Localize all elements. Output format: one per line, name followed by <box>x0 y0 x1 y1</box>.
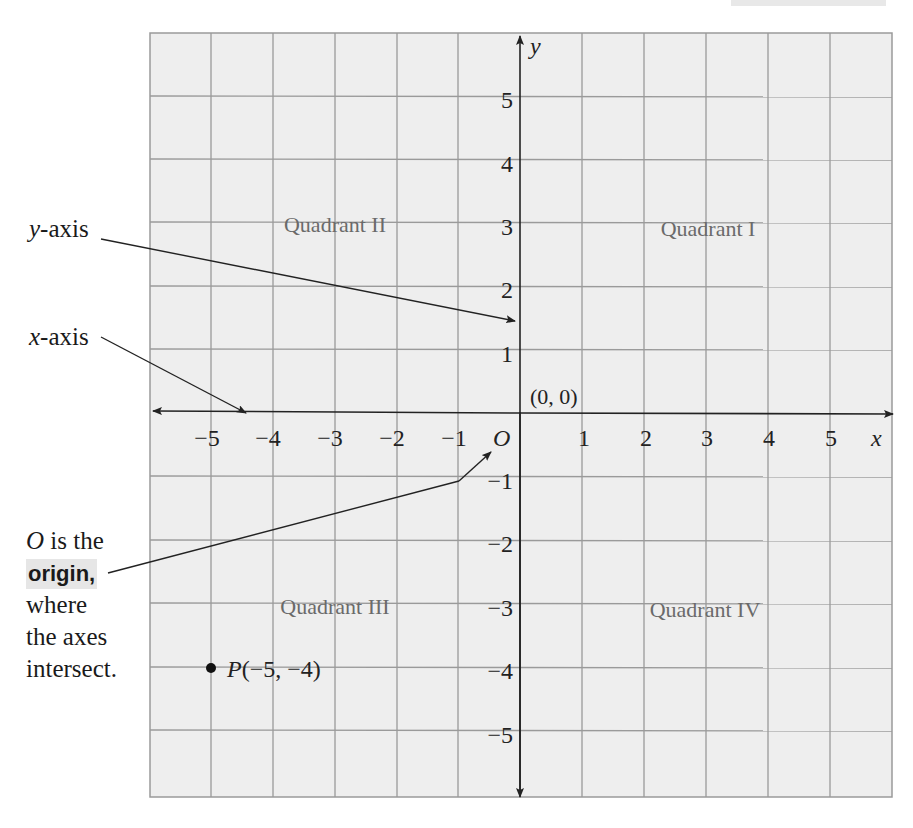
svg-text:5: 5 <box>825 425 837 451</box>
svg-text:−2: −2 <box>379 425 405 451</box>
svg-text:−3: −3 <box>487 595 513 621</box>
svg-text:−2: −2 <box>487 531 513 557</box>
origin-note-line5: intersect. <box>26 653 117 685</box>
svg-text:2: 2 <box>640 425 652 451</box>
coordinate-plane: y x −5 −4 −3 −2 −1 1 2 3 4 5 5 4 3 2 1 −… <box>0 0 913 828</box>
svg-text:−5: −5 <box>194 425 220 451</box>
svg-text:−1: −1 <box>441 425 467 451</box>
svg-text:−3: −3 <box>317 425 343 451</box>
grid-background <box>150 33 892 797</box>
y-var: y <box>29 215 40 242</box>
origin-term-highlight: origin, <box>26 559 97 589</box>
x-axis-letter: x <box>870 425 882 451</box>
svg-text:1: 1 <box>578 425 590 451</box>
x-var: x <box>29 323 40 350</box>
origin-definition-note: O is the origin, where the axes intersec… <box>26 525 117 685</box>
svg-text:5: 5 <box>501 87 513 113</box>
origin-note-line3: where <box>26 589 117 621</box>
svg-text:3: 3 <box>501 214 513 240</box>
point-p-marker <box>206 663 216 673</box>
y-axis-letter: y <box>528 33 541 59</box>
svg-text:2: 2 <box>501 277 513 303</box>
origin-coords-label: (0, 0) <box>530 384 578 409</box>
quadrant-iii-label: Quadrant III <box>280 594 389 619</box>
x-axis-callout-label: x-axis <box>29 321 89 353</box>
origin-letter: O <box>493 425 510 451</box>
y-axis-callout-label: y-axis <box>29 213 89 245</box>
svg-text:3: 3 <box>701 425 713 451</box>
origin-note-line1: O is the <box>26 525 117 557</box>
point-p-label: P(−5, −4) <box>226 656 321 682</box>
svg-text:4: 4 <box>501 151 513 177</box>
quadrant-i-label: Quadrant I <box>661 216 756 241</box>
svg-text:−1: −1 <box>487 468 513 494</box>
y-axis-text: -axis <box>40 215 89 242</box>
svg-text:−4: −4 <box>487 658 513 684</box>
svg-text:−5: −5 <box>487 722 513 748</box>
svg-text:4: 4 <box>763 425 775 451</box>
origin-note-line4: the axes <box>26 621 117 653</box>
svg-text:1: 1 <box>501 341 513 367</box>
svg-text:−4: −4 <box>255 425 281 451</box>
x-axis-text: -axis <box>40 323 89 350</box>
quadrant-iv-label: Quadrant IV <box>650 597 761 622</box>
x-axis <box>520 413 893 414</box>
quadrant-ii-label: Quadrant II <box>284 212 386 237</box>
